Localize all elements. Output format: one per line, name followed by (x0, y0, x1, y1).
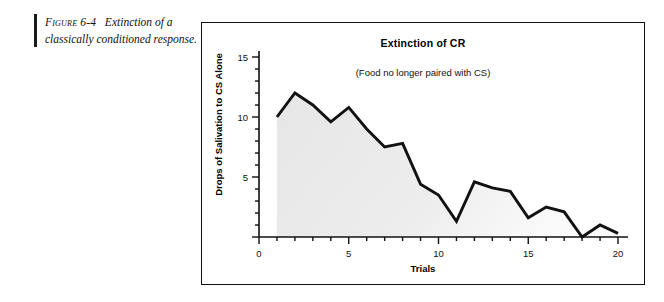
figure-number: Figure 6-4 (45, 16, 96, 28)
figure-frame: Extinction of CR (Food no longer paired … (201, 22, 645, 285)
x-tick-label: 15 (523, 248, 534, 259)
figure-caption: Figure 6-4 Extinction of a classically c… (34, 14, 197, 47)
x-tick-label: 5 (346, 248, 351, 259)
y-tick-label: 15 (237, 52, 248, 63)
y-tick-label: 10 (237, 112, 248, 123)
x-tick-label: 20 (613, 248, 624, 259)
x-tick-label: 0 (256, 248, 261, 259)
x-tick-label: 10 (433, 248, 444, 259)
y-tick-label: 5 (243, 172, 248, 183)
extinction-curve-plot: 5101505101520 (202, 23, 646, 286)
